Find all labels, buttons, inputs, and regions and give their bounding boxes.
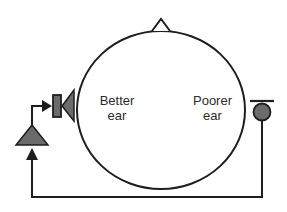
receiver-speaker-icon (53, 90, 74, 121)
better-ear-label-line1: Better (92, 93, 142, 108)
poorer-ear-label-line1: Poorer (185, 93, 240, 108)
nose-icon (152, 19, 170, 31)
cros-diagram: Better ear Poorer ear (0, 0, 287, 212)
better-ear-label: Better ear (92, 93, 142, 123)
better-ear-label-line2: ear (92, 108, 142, 123)
amplifier-icon (16, 125, 48, 145)
microphone-icon (250, 101, 274, 121)
poorer-ear-label-line2: ear (185, 108, 240, 123)
input-arrow-icon (26, 148, 38, 160)
poorer-ear-label: Poorer ear (185, 93, 240, 123)
signal-arrow-icon (32, 100, 52, 125)
